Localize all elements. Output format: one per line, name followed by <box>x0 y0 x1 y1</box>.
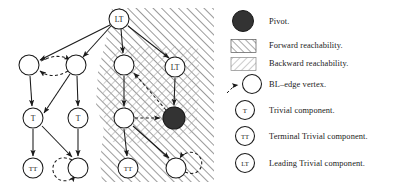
legend-label-bl-edge-vertex: BL–edge vertex. <box>269 80 326 89</box>
node-f[interactable] <box>166 158 186 178</box>
legend-forward-hatch-icon <box>231 40 256 53</box>
figure-root: LT LT T T TT <box>0 0 402 189</box>
legend-bl-edge-icon <box>227 75 262 94</box>
node-e[interactable] <box>68 158 88 178</box>
node-tt2-label: TT <box>124 165 133 173</box>
legend-label-forward-reachability: Forward reachability. <box>269 41 343 50</box>
legend-pivot-icon <box>233 11 254 32</box>
node-lt-right[interactable]: LT <box>165 57 185 77</box>
edge-t1-to-e <box>42 126 72 157</box>
legend-symbols: T TT LT <box>227 11 262 173</box>
node-pivot[interactable] <box>163 107 185 129</box>
legend-trivial-icon: T <box>236 101 255 120</box>
node-t2-label: T <box>76 114 81 123</box>
legend-label-trivial-component: Trivial component. <box>269 106 335 115</box>
edge-a-to-t1 <box>30 76 32 106</box>
edge-b-to-t2 <box>77 76 78 106</box>
legend-label-leading-trivial-component: Leading Trivial component. <box>269 159 365 168</box>
node-t1[interactable]: T <box>23 108 43 128</box>
node-t2[interactable]: T <box>68 108 88 128</box>
legend-trivial-node-text: T <box>243 107 248 115</box>
node-tt1-label: TT <box>29 165 38 173</box>
legend-label-terminal-trivial-component: Terminal Trivial component. <box>269 132 368 141</box>
node-a[interactable] <box>19 55 39 75</box>
node-c[interactable] <box>114 55 134 75</box>
node-tt2[interactable]: TT <box>118 158 138 178</box>
legend-terminal-node-text: TT <box>241 133 249 140</box>
node-t1-label: T <box>31 114 36 123</box>
legend-leading-trivial-icon: LT <box>236 154 255 173</box>
edge-b-to-a-dashed <box>40 71 68 76</box>
node-lt-right-label: LT <box>171 63 180 72</box>
legend-backward-hatch-icon <box>231 58 256 71</box>
node-lt-top-label: LT <box>115 15 124 24</box>
node-lt-top[interactable]: LT <box>109 9 129 29</box>
legend-leading-node-text: LT <box>241 160 248 167</box>
node-b[interactable] <box>66 55 86 75</box>
legend-terminal-trivial-icon: TT <box>236 127 255 146</box>
node-d[interactable] <box>114 108 134 128</box>
edge-b-to-t1 <box>44 74 70 113</box>
node-tt1[interactable]: TT <box>23 158 43 178</box>
legend-label-pivot: Pivot. <box>269 17 289 26</box>
legend-label-backward-reachability: Backward reachability. <box>269 59 348 68</box>
